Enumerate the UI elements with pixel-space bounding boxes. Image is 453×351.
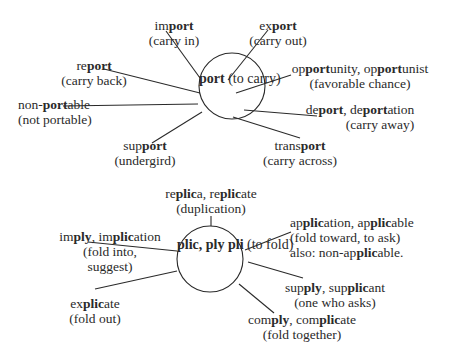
prefix: ap — [290, 215, 303, 230]
suffix: ate — [104, 296, 120, 311]
root: plic — [83, 296, 104, 311]
branch-comply: comply, complicate (fold together) — [237, 312, 367, 342]
suffix: unity, — [330, 61, 364, 76]
branch-replica: replica, replicate (duplication) — [151, 186, 271, 216]
root: plic — [220, 186, 241, 201]
meaning: (carry out) — [228, 33, 328, 48]
meaning: (undergird) — [100, 153, 190, 168]
branch-support: support (undergird) — [100, 138, 190, 168]
plic-hub: plic, ply pli (to fold) — [177, 237, 243, 252]
branch-opportunity: opportunity, opportunist (favorable chan… — [270, 61, 450, 91]
root: port — [87, 58, 112, 73]
root: plic — [113, 229, 134, 244]
prefix: sup — [123, 138, 142, 153]
root: port — [377, 61, 402, 76]
suffix: unist — [402, 61, 428, 76]
meaning: (carry back) — [44, 73, 144, 88]
prefix: ex — [70, 296, 83, 311]
suffix: , sup — [322, 280, 348, 295]
root: plic — [319, 312, 340, 327]
prefix: de — [306, 102, 319, 117]
suffix: , im — [92, 229, 113, 244]
branch-application: application, applicable (fold toward, to… — [290, 215, 414, 260]
branch-non-portable: non-portable (not portable) — [18, 97, 92, 127]
plic-hub-circle — [177, 226, 243, 292]
root: port — [318, 102, 343, 117]
meaning: (favorable chance) — [270, 76, 450, 91]
branch-explicate: explicate (fold out) — [60, 296, 130, 326]
root: ply — [304, 280, 322, 295]
meaning: (one who asks) — [270, 295, 400, 310]
root: port — [301, 138, 326, 153]
root: plic — [303, 215, 324, 230]
port-hub: port (to carry) — [199, 71, 265, 86]
meaning: (fold together) — [237, 327, 367, 342]
extra-suffix: able. — [377, 245, 403, 260]
branch-export: export (carry out) — [228, 18, 328, 48]
prefix: com — [248, 312, 271, 327]
suffix: able — [68, 97, 91, 112]
root: plic — [356, 245, 377, 260]
meaning: (carry in) — [124, 33, 224, 48]
suffix: ation, ap — [324, 215, 371, 230]
meaning: (not portable) — [18, 112, 92, 127]
branch-transport: transport (carry across) — [240, 138, 360, 168]
branch-report: report (carry back) — [44, 58, 144, 88]
extra-prefix: also: non-ap — [290, 245, 356, 260]
root: port — [272, 18, 297, 33]
hub-root: plic, ply — [177, 237, 224, 252]
suffix: able — [391, 215, 414, 230]
prefix: sup — [285, 280, 304, 295]
root: ply — [74, 229, 92, 244]
meaning-2: suggest) — [45, 259, 175, 274]
hub-root-2: pli — [228, 237, 244, 252]
branch-deport: deport, deportation (carry away) — [280, 102, 440, 132]
prefix: re — [76, 58, 87, 73]
root: port — [142, 138, 167, 153]
suffix: ation — [387, 102, 414, 117]
root: plic — [176, 186, 197, 201]
root: ply — [271, 312, 289, 327]
suffix: , de — [343, 102, 363, 117]
meaning: (fold into, — [45, 244, 175, 259]
suffix: ation — [134, 229, 161, 244]
suffix: ant — [368, 280, 385, 295]
root: port — [305, 61, 330, 76]
branch-supply: supply, supplicant (one who asks) — [270, 280, 400, 310]
meaning: (fold toward, to ask) — [290, 230, 414, 245]
prefix: im — [59, 229, 73, 244]
branch-import: import (carry in) — [124, 18, 224, 48]
branch-imply: imply, implication (fold into, suggest) — [45, 229, 175, 274]
prefix: ex — [259, 18, 272, 33]
suffix: a, re — [197, 186, 220, 201]
prefix: op — [364, 61, 378, 76]
root: plic — [347, 280, 368, 295]
prefix: op — [292, 61, 306, 76]
root: port — [43, 97, 68, 112]
prefix: non- — [18, 97, 43, 112]
meaning: (duplication) — [151, 201, 271, 216]
meaning: (carry away) — [280, 117, 440, 132]
prefix: trans — [275, 138, 301, 153]
hub-root: port — [199, 71, 225, 86]
prefix: im — [154, 18, 168, 33]
root: plic — [370, 215, 391, 230]
meaning: (fold out) — [60, 311, 130, 326]
port-hub-circle — [199, 53, 265, 119]
root: port — [169, 18, 194, 33]
meaning: (carry across) — [240, 153, 360, 168]
hub-meaning: (to fold) — [247, 237, 293, 252]
suffix: ate — [340, 312, 356, 327]
suffix: , com — [289, 312, 319, 327]
prefix: re — [165, 186, 176, 201]
root: port — [363, 102, 388, 117]
suffix: ate — [241, 186, 257, 201]
